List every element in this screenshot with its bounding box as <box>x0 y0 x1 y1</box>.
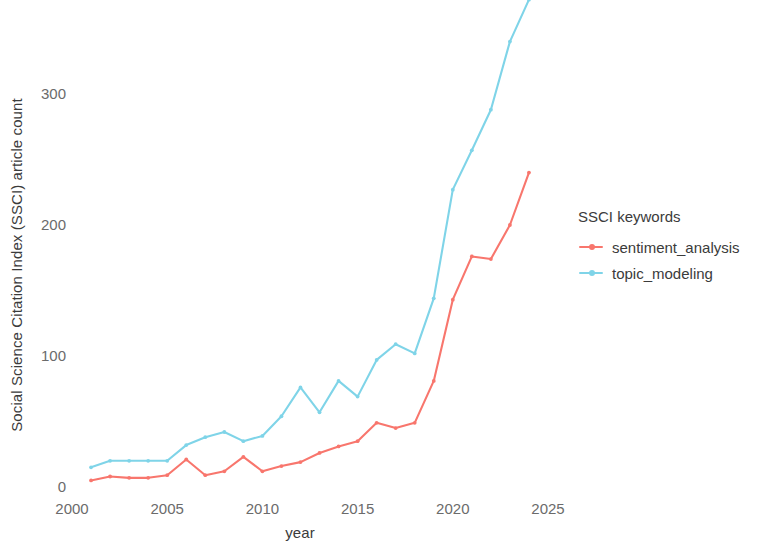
data-point <box>527 171 531 175</box>
data-point <box>280 464 284 468</box>
data-point <box>89 465 93 469</box>
legend-item-topic_modeling[interactable]: topic_modeling <box>578 261 756 285</box>
data-point <box>280 414 284 418</box>
data-point <box>184 458 188 462</box>
data-point <box>299 460 303 464</box>
legend-title: SSCI keywords <box>578 208 756 225</box>
data-point <box>375 358 379 362</box>
data-point <box>203 435 207 439</box>
legend-items: sentiment_analysistopic_modeling <box>578 235 756 285</box>
data-point <box>432 296 436 300</box>
data-point <box>108 459 112 463</box>
data-point <box>413 421 417 425</box>
data-point <box>394 426 398 430</box>
data-point <box>337 444 341 448</box>
data-point <box>127 476 131 480</box>
series-sentiment_analysis <box>89 171 531 483</box>
data-point <box>241 439 245 443</box>
data-point <box>394 342 398 346</box>
data-point <box>108 475 112 479</box>
series-line <box>91 0 529 467</box>
data-point <box>470 255 474 259</box>
data-point <box>184 443 188 447</box>
data-point <box>222 469 226 473</box>
data-point <box>146 476 150 480</box>
data-point <box>337 379 341 383</box>
data-point <box>508 40 512 44</box>
data-point <box>261 469 265 473</box>
data-point <box>165 459 169 463</box>
data-point <box>222 430 226 434</box>
data-point <box>241 455 245 459</box>
legend-key-icon <box>578 263 604 283</box>
data-point <box>451 298 455 302</box>
chart-container: Social Science Citation Index (SSCI) art… <box>0 0 757 545</box>
data-point <box>318 410 322 414</box>
data-point <box>489 257 493 261</box>
data-point <box>89 479 93 483</box>
data-point <box>165 473 169 477</box>
data-point <box>508 223 512 227</box>
data-point <box>146 459 150 463</box>
legend-item-sentiment_analysis[interactable]: sentiment_analysis <box>578 235 756 259</box>
data-point <box>261 434 265 438</box>
data-point <box>432 379 436 383</box>
data-point <box>375 421 379 425</box>
series-line <box>91 173 529 481</box>
data-point <box>318 451 322 455</box>
data-point <box>356 395 360 399</box>
data-point <box>451 188 455 192</box>
data-point <box>203 473 207 477</box>
data-point <box>413 351 417 355</box>
legend-item-label: topic_modeling <box>612 265 713 282</box>
series-topic_modeling <box>89 0 531 469</box>
legend-item-label: sentiment_analysis <box>612 239 740 256</box>
data-point <box>127 459 131 463</box>
legend-key-icon <box>578 237 604 257</box>
data-point <box>470 148 474 152</box>
legend: SSCI keywords sentiment_analysistopic_mo… <box>578 208 756 287</box>
data-point <box>299 386 303 390</box>
data-point <box>489 108 493 112</box>
data-point <box>356 439 360 443</box>
